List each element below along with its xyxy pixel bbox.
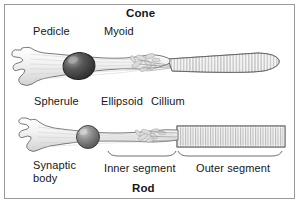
title-rod: Rod xyxy=(132,182,155,195)
cone-outer-segment xyxy=(168,53,279,72)
outer-segment-bracket xyxy=(178,151,282,156)
title-cone: Cone xyxy=(126,7,155,20)
rod-body xyxy=(19,118,178,152)
label-pedicle: Pedicle xyxy=(33,25,70,38)
photoreceptor-diagram: Cone Pedicle Myoid Spherule Ellipsoid Ci… xyxy=(0,0,301,205)
label-synaptic-body: Synaptic body xyxy=(33,159,95,184)
label-inner-segment: Inner segment xyxy=(104,162,176,175)
rod-nucleus xyxy=(77,126,100,149)
label-spherule: Spherule xyxy=(34,95,79,108)
segment-brackets xyxy=(108,151,282,156)
inner-segment-bracket xyxy=(108,151,176,156)
cone-cell xyxy=(12,47,279,85)
rod-cell xyxy=(19,118,285,156)
label-cillium: Cillium xyxy=(151,95,185,108)
cone-body xyxy=(12,47,170,85)
label-ellipsoid: Ellipsoid xyxy=(101,95,143,108)
label-myoid: Myoid xyxy=(104,25,134,38)
label-outer-segment: Outer segment xyxy=(196,162,270,175)
rod-outer-segment xyxy=(177,126,285,147)
